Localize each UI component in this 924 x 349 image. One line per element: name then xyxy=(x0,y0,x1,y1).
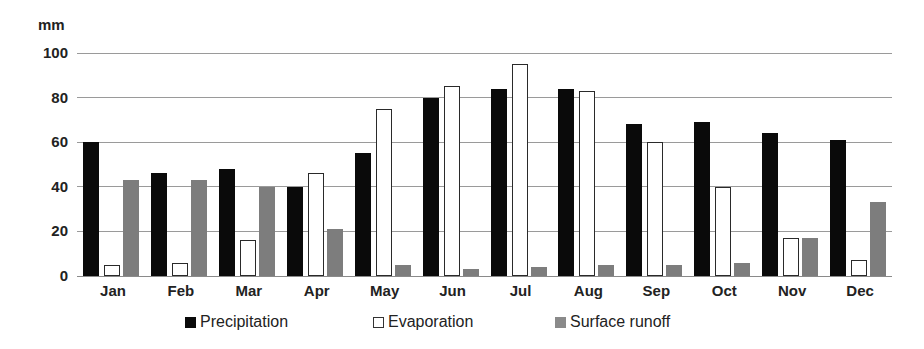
bar-surface-runoff-sep xyxy=(666,265,682,276)
bar-evaporation-jan xyxy=(104,265,120,276)
bar-surface-runoff-jul xyxy=(531,267,547,276)
bar-evaporation-sep xyxy=(647,142,663,276)
x-tick-jul: Jul xyxy=(487,282,555,299)
bar-evaporation-nov xyxy=(783,238,799,276)
bar-evaporation-feb xyxy=(172,263,188,276)
bar-precipitation-sep xyxy=(626,124,642,276)
bar-surface-runoff-apr xyxy=(327,229,343,276)
bar-chart: mm 100 80 60 40 20 0 JanFebMarAprMayJunJ… xyxy=(0,0,924,349)
bar-surface-runoff-nov xyxy=(802,238,818,276)
bar-surface-runoff-feb xyxy=(191,180,207,276)
legend-label: Precipitation xyxy=(200,313,288,331)
bar-surface-runoff-aug xyxy=(598,265,614,276)
bar-precipitation-mar xyxy=(219,169,235,276)
x-tick-nov: Nov xyxy=(758,282,826,299)
bar-evaporation-mar xyxy=(240,240,256,276)
bar-precipitation-oct xyxy=(694,122,710,276)
bar-precipitation-dec xyxy=(830,140,846,276)
y-tick-80: 80 xyxy=(36,90,68,106)
legend-item-surface-runoff: Surface runoff xyxy=(555,313,670,331)
bar-precipitation-aug xyxy=(558,89,574,276)
x-tick-jan: Jan xyxy=(79,282,147,299)
legend-label: Surface runoff xyxy=(570,313,670,331)
legend-item-precipitation: Precipitation xyxy=(185,313,288,331)
x-tick-jun: Jun xyxy=(419,282,487,299)
bar-surface-runoff-dec xyxy=(870,202,886,276)
bar-precipitation-feb xyxy=(151,173,167,276)
bar-evaporation-aug xyxy=(579,91,595,276)
y-tick-20: 20 xyxy=(36,223,68,239)
surface-runoff-swatch-icon xyxy=(555,317,566,328)
x-tick-oct: Oct xyxy=(690,282,758,299)
bar-evaporation-apr xyxy=(308,173,324,276)
y-axis-unit-label: mm xyxy=(38,16,65,33)
x-tick-aug: Aug xyxy=(554,282,622,299)
y-tick-0: 0 xyxy=(36,268,68,284)
x-tick-mar: Mar xyxy=(215,282,283,299)
bar-evaporation-jun xyxy=(444,86,460,276)
legend-label: Evaporation xyxy=(388,313,473,331)
bar-surface-runoff-jan xyxy=(123,180,139,276)
bar-surface-runoff-jun xyxy=(463,269,479,276)
y-tick-100: 100 xyxy=(36,45,68,61)
bar-precipitation-jan xyxy=(83,142,99,276)
x-tick-feb: Feb xyxy=(147,282,215,299)
evaporation-swatch-icon xyxy=(373,317,384,328)
bar-evaporation-oct xyxy=(715,187,731,276)
legend-item-evaporation: Evaporation xyxy=(373,313,473,331)
x-axis-line xyxy=(77,276,892,277)
bar-surface-runoff-may xyxy=(395,265,411,276)
bar-precipitation-nov xyxy=(762,133,778,276)
x-tick-sep: Sep xyxy=(622,282,690,299)
x-tick-apr: Apr xyxy=(283,282,351,299)
bar-evaporation-may xyxy=(376,109,392,276)
bar-precipitation-may xyxy=(355,153,371,276)
bar-surface-runoff-oct xyxy=(734,263,750,276)
bar-precipitation-apr xyxy=(287,187,303,276)
bar-surface-runoff-mar xyxy=(259,187,275,276)
x-tick-may: May xyxy=(351,282,419,299)
legend: Precipitation Evaporation Surface runoff xyxy=(0,313,924,333)
bar-evaporation-dec xyxy=(851,260,867,276)
y-tick-40: 40 xyxy=(36,179,68,195)
bar-evaporation-jul xyxy=(512,64,528,276)
x-tick-dec: Dec xyxy=(826,282,894,299)
precipitation-swatch-icon xyxy=(185,317,196,328)
y-tick-60: 60 xyxy=(36,134,68,150)
bar-precipitation-jul xyxy=(491,89,507,276)
bar-precipitation-jun xyxy=(423,98,439,276)
plot-area xyxy=(77,53,892,276)
